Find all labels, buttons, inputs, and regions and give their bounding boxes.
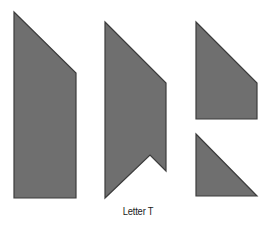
piece-right-triangle xyxy=(196,134,257,196)
diagram-caption: Letter T xyxy=(123,205,154,217)
piece-trapezoid-short xyxy=(196,22,257,119)
piece-trapezoid-tall xyxy=(14,12,76,198)
diagram-caption-wrap: Letter T xyxy=(0,205,272,217)
tangram-diagram xyxy=(0,0,272,227)
piece-notched-pentagon xyxy=(105,22,166,198)
